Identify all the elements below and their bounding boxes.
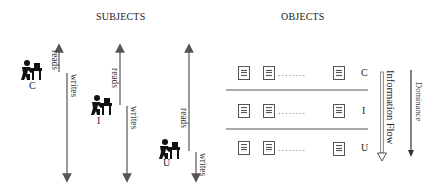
subject-i-writes-label: writes: [129, 106, 139, 129]
document-icon: [238, 141, 250, 155]
subject-i-reads-label: reads: [110, 68, 120, 88]
subject-c-writes-label: writes: [69, 74, 79, 97]
subject-i-icon: [89, 94, 113, 116]
info-flow-head: [378, 153, 387, 161]
document-icon: [263, 104, 275, 118]
object-level-label: C: [361, 67, 368, 78]
document-icon: [333, 104, 345, 118]
ellipsis: ........: [278, 67, 306, 78]
document-icon: [333, 66, 345, 80]
dominance-label: Dominance: [414, 82, 424, 121]
diagram-lines: [0, 0, 441, 193]
subject-u-writes-label: writes: [198, 153, 208, 176]
information-flow-label: Information Flow: [385, 70, 396, 144]
ellipsis: ........: [278, 142, 306, 153]
document-icon: [333, 142, 345, 156]
dominance-head: [408, 150, 414, 157]
document-icon: [263, 66, 275, 80]
subject-c-icon: [19, 59, 43, 81]
info-flow-shaft: [381, 72, 384, 153]
subject-u-reads-label: reads: [179, 108, 189, 128]
object-level-label: I: [362, 105, 365, 116]
subject-c-label: C: [29, 80, 36, 91]
document-icon: [238, 66, 250, 80]
subject-c-reads-label: reads: [50, 50, 60, 70]
ellipsis: ........: [278, 105, 306, 116]
document-icon: [238, 104, 250, 118]
document-icon: [263, 141, 275, 155]
subject-i-label: I: [97, 115, 100, 126]
object-level-label: U: [361, 142, 368, 153]
subject-u-label: U: [163, 157, 170, 168]
